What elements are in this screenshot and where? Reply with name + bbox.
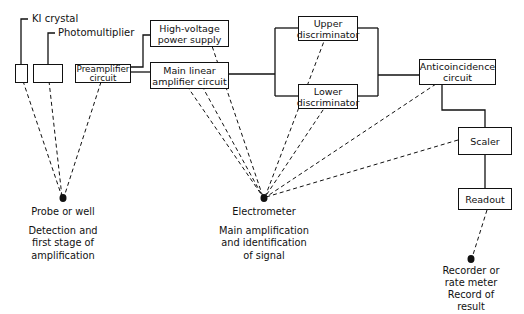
- ki-crystal-box: [15, 64, 28, 83]
- recorder-desc-1: Record of: [442, 289, 499, 301]
- electrometer-desc-2: and identification: [219, 237, 309, 250]
- probe-desc-3: amplification: [28, 250, 97, 263]
- anticoincidence-line1: Anticoincidence: [420, 61, 495, 72]
- hv-power-supply-box: High-voltagepower supply: [150, 20, 229, 47]
- electrometer-dot: [261, 194, 268, 202]
- hv-supply-line1: High-voltage: [158, 23, 222, 34]
- main-amp-line1: Main linear: [152, 65, 226, 76]
- electrometer-desc-3: of signal: [219, 250, 309, 263]
- readout-label: Readout: [465, 194, 504, 205]
- lower-disc-line1: Lower: [297, 86, 360, 97]
- recorder-caption: Recorder or rate meter Record of result: [442, 265, 499, 313]
- photomultiplier-label: Photomultiplier: [58, 27, 134, 39]
- lower-disc-line2: discriminator: [297, 97, 360, 108]
- electrometer-caption: Electrometer Main amplification and iden…: [219, 206, 309, 262]
- probe-name: Probe or well: [28, 206, 97, 219]
- upper-disc-line1: Upper: [297, 18, 360, 29]
- upper-discriminator-box: Upperdiscriminator: [298, 16, 358, 41]
- hv-supply-line2: power supply: [158, 34, 222, 45]
- preamplifier-line2: circuit: [77, 74, 130, 83]
- probe-desc-2: first stage of: [28, 237, 97, 250]
- scaler-label: Scaler: [470, 136, 499, 147]
- electrometer-name: Electrometer: [219, 206, 309, 219]
- main-amp-line2: amplifier circuit: [152, 76, 226, 87]
- recorder-name-2: rate meter: [442, 277, 499, 289]
- recorder-name-1: Recorder or: [442, 265, 499, 277]
- recorder-desc-2: result: [442, 301, 499, 313]
- upper-disc-line2: discriminator: [297, 29, 360, 40]
- scaler-box: Scaler: [458, 127, 512, 155]
- probe-dot: [60, 194, 67, 202]
- ki-crystal-label: KI crystal: [32, 13, 78, 25]
- probe-caption: Probe or well Detection and first stage …: [28, 206, 97, 262]
- photomultiplier-box: [33, 64, 63, 83]
- lower-discriminator-box: Lowerdiscriminator: [298, 84, 358, 109]
- probe-desc-1: Detection and: [28, 225, 97, 238]
- preamplifier-box: Preamplifiercircuit: [75, 64, 131, 83]
- anticoincidence-line2: circuit: [420, 72, 495, 83]
- recorder-dot: [468, 255, 475, 263]
- anticoincidence-box: Anticoincidencecircuit: [419, 59, 496, 85]
- main-linear-amplifier-box: Main linearamplifier circuit: [150, 62, 229, 89]
- readout-box: Readout: [458, 188, 512, 210]
- electrometer-desc-1: Main amplification: [219, 225, 309, 238]
